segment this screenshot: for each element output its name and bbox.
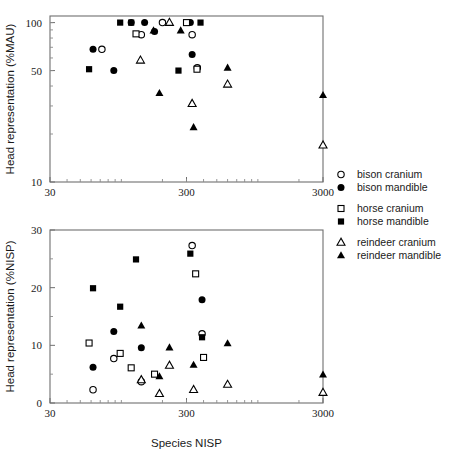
circle-filled-marker (110, 67, 117, 74)
x-tick-label: 300 (178, 407, 195, 419)
circle-filled-marker (90, 46, 97, 53)
square-open-marker (184, 20, 190, 26)
square-open-marker (128, 365, 134, 371)
x-tick-label: 300 (178, 186, 195, 198)
square-filled-marker (197, 19, 203, 25)
circle-filled-marker (199, 296, 206, 303)
circle-open-marker (189, 242, 195, 248)
x-tick-label: 3000 (312, 407, 335, 419)
square-filled-marker (117, 304, 123, 310)
square-open-marker (338, 206, 344, 212)
circle-open-marker (111, 355, 117, 361)
y-tick-label: 20 (31, 282, 43, 294)
legend-item-label: bison cranium (357, 168, 423, 180)
square-open-marker (193, 271, 199, 277)
scatter-figure: 3030030001050100 Head representation (%M… (0, 0, 452, 461)
y-tick-label: 10 (31, 339, 43, 351)
circle-filled-marker (189, 51, 196, 58)
y-tick-label: 0 (37, 397, 43, 409)
circle-filled-marker (338, 184, 345, 191)
square-open-marker (86, 340, 92, 346)
circle-open-marker (90, 387, 96, 393)
square-filled-marker (187, 251, 193, 257)
circle-filled-marker (90, 364, 97, 371)
y-tick-label: 30 (31, 224, 43, 236)
square-filled-marker (175, 67, 181, 73)
square-filled-marker (128, 19, 134, 25)
square-filled-marker (133, 256, 139, 262)
square-filled-marker (338, 218, 344, 224)
circle-open-marker (159, 19, 165, 25)
square-filled-marker (86, 66, 92, 72)
circle-filled-marker (141, 19, 148, 26)
panel-bottom-y-axis-label: Head representation (%NISP) (4, 240, 16, 392)
y-tick-label: 10 (31, 176, 43, 188)
panel-bottom-x-axis-label: Species NISP (151, 437, 222, 449)
y-tick-label: 50 (31, 65, 43, 77)
x-tick-label: 30 (45, 407, 57, 419)
square-filled-marker (90, 285, 96, 291)
legend-item-label: bison mandible (357, 181, 428, 193)
square-open-marker (201, 354, 207, 360)
square-filled-marker (117, 19, 123, 25)
circle-open-marker (338, 171, 344, 177)
circle-open-marker (99, 46, 105, 52)
legend-item-label: reindeer mandible (357, 249, 441, 261)
circle-filled-marker (138, 344, 145, 351)
circle-open-marker (189, 31, 195, 37)
x-tick-label: 30 (45, 186, 57, 198)
legend-item-label: horse cranium (357, 202, 424, 214)
square-open-marker (133, 31, 139, 37)
square-open-marker (117, 350, 123, 356)
y-tick-label: 100 (26, 17, 43, 29)
legend-item-label: horse mandible (357, 215, 429, 227)
square-open-marker (194, 66, 200, 72)
panel-top-y-axis-label: Head representation (%MAU) (4, 23, 16, 174)
square-filled-marker (199, 334, 205, 340)
circle-filled-marker (110, 328, 117, 335)
square-open-marker (152, 371, 158, 377)
legend-item-label: reindeer cranium (357, 236, 436, 248)
x-tick-label: 3000 (312, 186, 335, 198)
